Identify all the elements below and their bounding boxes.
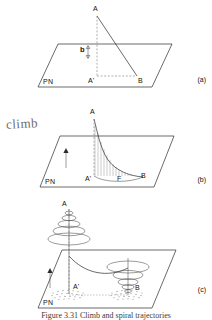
label-plane-pn-c: PN (43, 299, 53, 306)
label-target-b-panel-a: B (138, 77, 143, 84)
label-target-b-panel-b: B (141, 172, 146, 179)
handwritten-climb-annotation: climb (6, 115, 39, 133)
trajectory-arc-c (69, 256, 128, 273)
label-plane-pn-a: PN (43, 78, 53, 85)
helix-at-b (107, 258, 149, 295)
label-foot-a-prime-panel-b: A' (85, 175, 91, 182)
panel-a: A A' B b PN (a) (0, 0, 212, 100)
label-height-b: b (80, 46, 85, 53)
climb-arrow-c (47, 268, 52, 288)
label-plane-pn-b: PN (45, 178, 55, 185)
hatch-region-b (95, 125, 131, 176)
label-foot-a-prime-panel-c: A' (73, 283, 79, 290)
panel-tag-a: (a) (197, 76, 206, 83)
label-apex-a-panel-c: A (62, 200, 67, 207)
figure-caption: Figure 3.31 Climb and spiral trajectorie… (0, 311, 212, 320)
label-foot-a-prime-panel-a: A' (88, 77, 94, 84)
panel-c: A A' B PN (c) (0, 198, 212, 320)
height-arrow-b (86, 46, 90, 59)
label-apex-a-panel-b: A (90, 108, 95, 115)
climb-arrow-b (63, 148, 68, 168)
plane-pn-a (38, 44, 172, 87)
trajectory-curve-b (94, 119, 143, 177)
figure-container: A A' B b PN (a) (0, 0, 212, 320)
panel-c-graphic (0, 198, 212, 320)
panel-tag-b: (b) (197, 176, 206, 183)
label-target-b-panel-c: B (135, 284, 140, 291)
panel-tag-c: (c) (198, 286, 206, 293)
panel-a-graphic (0, 0, 212, 100)
trajectory-a-to-b (97, 16, 137, 76)
label-mid-f-panel-b: F (117, 175, 121, 182)
label-apex-a-panel-a: A (93, 5, 98, 12)
